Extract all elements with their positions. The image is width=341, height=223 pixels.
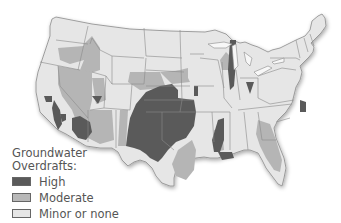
legend-item-high: High: [12, 174, 119, 189]
minor-swatch: [12, 209, 31, 218]
legend-label-moderate: Moderate: [39, 191, 94, 205]
legend-item-minor: Minor or none: [12, 206, 119, 221]
high-swatch: [12, 177, 31, 186]
legend-item-moderate: Moderate: [12, 190, 119, 205]
legend-title-line2: Overdrafts:: [12, 160, 119, 173]
map-legend: Groundwater Overdrafts: High Moderate Mi…: [12, 147, 119, 221]
legend-label-minor: Minor or none: [39, 207, 119, 221]
moderate-swatch: [12, 193, 31, 202]
legend-label-high: High: [39, 175, 65, 189]
